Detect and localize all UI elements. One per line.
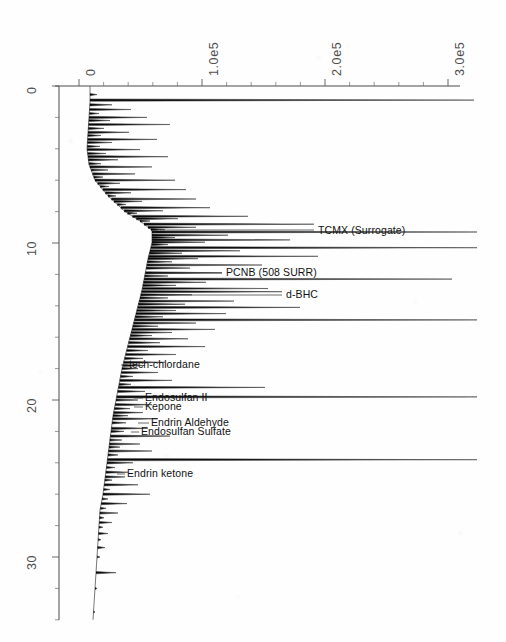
- peak-spike: [118, 386, 265, 388]
- peak-spike: [137, 309, 176, 311]
- peak-annotation-label: Kepone: [145, 400, 182, 412]
- peak-spike: [87, 145, 100, 147]
- peak-spike: [152, 241, 205, 243]
- y-axis-tick-label: 30: [25, 555, 39, 570]
- peak-spike: [142, 287, 268, 289]
- peak-spike: [114, 408, 130, 410]
- peak-spike: [90, 99, 474, 101]
- peak-spike: [133, 325, 158, 327]
- peak-spike: [152, 231, 477, 233]
- peak-spike: [121, 207, 210, 209]
- peak-spike: [144, 278, 452, 280]
- peak-annotation-label: d-BHC: [286, 288, 318, 300]
- chromatogram-trace: [87, 86, 477, 620]
- peak-spike: [98, 182, 120, 184]
- peak-spike: [113, 415, 128, 417]
- peak-spike: [88, 156, 168, 158]
- peak-spike: [90, 104, 112, 106]
- y-axis-tick-label: 20: [25, 398, 39, 413]
- peak-spike: [151, 247, 477, 249]
- peak-spike: [87, 149, 140, 151]
- peak-spike: [126, 353, 176, 355]
- peak-spike: [91, 169, 108, 171]
- peak-spike: [129, 342, 160, 344]
- x-axis-tick-label: 3.0e5: [453, 42, 467, 76]
- peak-spike: [152, 236, 175, 238]
- peak-spike: [140, 297, 168, 299]
- x-axis-tick-label: 1.0e5: [207, 42, 221, 76]
- peak-spike: [89, 116, 147, 118]
- peak-spike: [111, 198, 196, 200]
- peak-spike: [120, 379, 172, 381]
- peak-spike: [118, 390, 145, 392]
- peak-spike: [100, 185, 109, 187]
- y-axis-tick-label: 10: [25, 241, 39, 256]
- peak-spike: [144, 281, 207, 283]
- peak-spike: [110, 439, 122, 441]
- peak-spike: [106, 471, 128, 473]
- peak-spike: [100, 512, 118, 514]
- peak-spike: [102, 498, 108, 500]
- peak-annotation-label: PCNB (508 SURR): [226, 266, 317, 278]
- peak-spike: [94, 611, 96, 613]
- chromatogram-figure: 01.0e52.0e53.0e5 0102030 TCMX (Surrogate…: [0, 0, 506, 642]
- peak-spike: [147, 261, 172, 263]
- peak-spike: [101, 503, 127, 505]
- peak-spike: [152, 239, 290, 241]
- peak-spike: [105, 192, 131, 194]
- peak-spike: [136, 313, 226, 315]
- peak-spike: [108, 454, 118, 456]
- peak-spike: [89, 123, 171, 125]
- peak-spike: [138, 306, 300, 308]
- peak-spike: [148, 226, 196, 228]
- peak-spike: [152, 244, 168, 246]
- peak-spike: [88, 152, 106, 154]
- peak-spike: [100, 507, 106, 509]
- peak-spike: [105, 479, 112, 481]
- peak-spike: [106, 466, 115, 468]
- peak-spike: [93, 173, 135, 175]
- peak-spike: [99, 526, 103, 528]
- peak-annotation-label: Endosulfan Sulfate: [141, 425, 231, 437]
- peak-spike: [131, 331, 172, 333]
- peak-spike: [143, 284, 176, 286]
- peak-spike: [104, 488, 110, 490]
- x-axis-tick-label: 2.0e5: [330, 42, 344, 76]
- peak-spike: [99, 532, 109, 534]
- peak-spike: [97, 556, 100, 558]
- peak-spike: [142, 291, 282, 293]
- peak-spike: [130, 335, 152, 337]
- peak-spike: [90, 166, 152, 168]
- peak-spike: [117, 203, 126, 205]
- peak-spike: [149, 255, 318, 257]
- peak-spike: [100, 517, 105, 519]
- peak-spike: [149, 252, 182, 254]
- x-axis-tick-label: 0: [84, 68, 98, 76]
- peak-spike: [134, 322, 196, 324]
- peak-annotation-label: Endrin ketone: [127, 467, 193, 479]
- peak-spike: [145, 275, 168, 277]
- peak-annotation-label: TCMX (Surrogate): [318, 224, 405, 236]
- peak-spike: [87, 141, 112, 143]
- peak-spike: [121, 375, 134, 377]
- peak-spike: [109, 443, 140, 445]
- peak-spike: [128, 212, 138, 214]
- peak-spike: [88, 159, 118, 161]
- peak-spike: [99, 521, 112, 523]
- peak-spike: [136, 218, 178, 220]
- peak-spike: [148, 258, 198, 260]
- peak-spike: [94, 176, 103, 178]
- peak-spike: [150, 250, 240, 252]
- peak-spike: [96, 572, 116, 574]
- chromatogram-plot-canvas: [0, 0, 506, 642]
- peak-spike: [95, 587, 97, 589]
- peak-spike: [89, 119, 110, 121]
- peak-spike: [90, 109, 132, 111]
- peak-spike: [119, 383, 131, 385]
- peak-spike: [95, 179, 175, 181]
- peak-spike: [134, 319, 477, 321]
- peak-spike: [111, 430, 124, 432]
- peak-spike: [103, 493, 150, 495]
- peak-spike: [114, 200, 142, 202]
- y-axis-tick-label: 0: [25, 86, 39, 94]
